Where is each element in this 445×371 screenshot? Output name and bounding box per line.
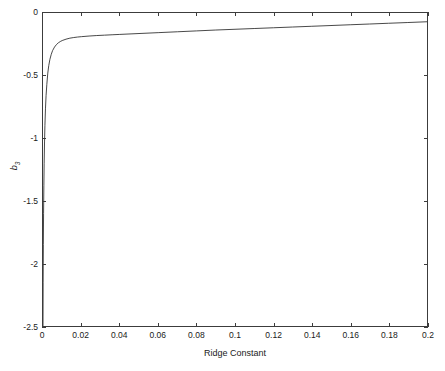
y-tick-1 [42,75,46,76]
x-tick-label-7: 0.14 [304,330,321,340]
x-tick-label-10: 0.2 [422,330,434,340]
x-tick-4 [196,323,197,327]
x-tick-5 [235,323,236,327]
y-tick-2 [42,138,46,139]
y-tick-label-5: -2.5 [9,322,38,332]
y-tick-label-0: 0 [9,7,38,17]
x-tick-label-9: 0.18 [381,330,398,340]
y-tick-right-5 [424,327,428,328]
y-tick-label-2: -1 [9,133,38,143]
y-tick-right-1 [424,75,428,76]
y-tick-right-0 [424,12,428,13]
x-tick-top-3 [158,12,159,16]
data-curve [43,13,427,326]
figure-canvas: 00.020.040.060.080.10.120.140.160.180.2 … [0,0,445,371]
x-tick-9 [389,323,390,327]
x-tick-3 [158,323,159,327]
x-tick-7 [312,323,313,327]
x-tick-2 [119,323,120,327]
x-tick-10 [428,323,429,327]
x-tick-label-2: 0.04 [111,330,128,340]
y-axis-label-subscript: 3 [14,162,21,166]
y-tick-5 [42,327,46,328]
x-tick-label-1: 0.02 [72,330,89,340]
x-tick-top-6 [274,12,275,16]
x-tick-6 [274,323,275,327]
x-tick-label-6: 0.12 [265,330,282,340]
y-axis-label-text: b [9,165,19,170]
y-tick-label-3: -1.5 [9,196,38,206]
x-tick-label-5: 0.1 [229,330,241,340]
x-tick-top-4 [196,12,197,16]
x-tick-top-2 [119,12,120,16]
x-tick-top-5 [235,12,236,16]
x-tick-top-10 [428,12,429,16]
plot-area [42,12,428,327]
x-tick-label-4: 0.08 [188,330,205,340]
x-tick-label-3: 0.06 [150,330,167,340]
y-tick-label-4: -2 [9,259,38,269]
y-tick-3 [42,201,46,202]
y-tick-right-4 [424,264,428,265]
y-axis-label: b3 [9,153,21,179]
x-tick-label-8: 0.16 [343,330,360,340]
x-axis-label: Ridge Constant [42,348,428,358]
x-tick-label-0: 0 [40,330,45,340]
x-tick-top-9 [389,12,390,16]
y-tick-4 [42,264,46,265]
x-tick-8 [351,323,352,327]
y-tick-right-3 [424,201,428,202]
x-tick-top-7 [312,12,313,16]
y-tick-0 [42,12,46,13]
y-tick-label-1: -0.5 [9,70,38,80]
y-tick-right-2 [424,138,428,139]
x-tick-top-8 [351,12,352,16]
x-tick-1 [81,323,82,327]
x-tick-top-1 [81,12,82,16]
